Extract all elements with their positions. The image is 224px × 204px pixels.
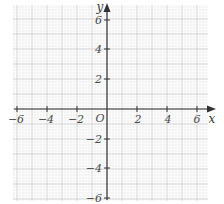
grid — [13, 5, 208, 201]
y-tick-label: −2 — [86, 133, 102, 146]
y-tick-label: 6 — [95, 14, 102, 27]
coordinate-plane: −6 −4 −2 O 2 4 6 x 6 4 2 −2 −4 −6 y — [0, 0, 224, 204]
x-tick-label: 2 — [134, 113, 142, 126]
origin-label: O — [95, 112, 104, 125]
y-axis-arrow-icon — [104, 3, 111, 12]
x-tick-label: −2 — [68, 113, 84, 126]
y-tick-label: −4 — [86, 162, 102, 175]
x-tick-label: −4 — [38, 113, 54, 126]
y-tick-label: 2 — [94, 73, 102, 86]
x-tick-label: 6 — [194, 113, 201, 126]
y-tick-label: −6 — [86, 192, 102, 204]
y-axis-label: y — [96, 0, 104, 14]
x-axis-label: x — [209, 112, 216, 126]
y-tick-label: 4 — [94, 43, 102, 56]
x-tick-label: −6 — [8, 113, 24, 126]
x-tick-label: 4 — [164, 113, 172, 126]
